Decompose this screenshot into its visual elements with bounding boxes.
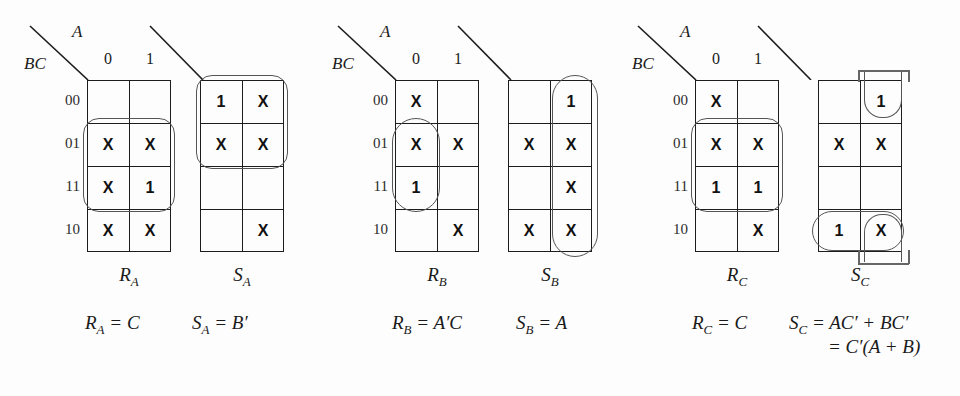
kmap-cell: [395, 209, 437, 252]
kmap-group-wrap-bottom: [864, 214, 902, 262]
equation-lhs: R: [392, 312, 404, 333]
equation-rhs: = A: [538, 312, 567, 333]
kmap-caption-sub: B: [439, 274, 447, 289]
axis-diagonal-icon: [148, 24, 226, 80]
kmap-grid-rb: X X X 1 X: [395, 80, 479, 252]
kmap-cell: X: [242, 123, 284, 166]
kmap-cell: X: [550, 209, 592, 252]
kmap-cell: X: [437, 123, 479, 166]
col-header-0: 0: [395, 50, 437, 68]
kmap-cell: X: [550, 166, 592, 209]
axis-label-a: A: [380, 22, 390, 42]
row-header-11: 11: [46, 178, 80, 195]
col-header-0: 0: [695, 50, 737, 68]
col-header-0: 0: [87, 50, 129, 68]
kmap-cell: X: [508, 123, 550, 166]
axis-diagonal-icon: [756, 24, 834, 80]
kmap-cell: [437, 80, 479, 123]
kmap-caption-sc: SC: [818, 264, 902, 290]
row-header-01: 01: [46, 135, 80, 152]
kmap-cell: X: [87, 123, 129, 166]
kmap-caption-text: S: [851, 264, 861, 285]
kmap-cell: X: [242, 80, 284, 123]
kmap-caption-sub: C: [738, 274, 747, 289]
kmap-cell: X: [550, 123, 592, 166]
kmap-cell: X: [818, 123, 860, 166]
kmap-cell: 1: [737, 166, 779, 209]
kmap-cell: [818, 166, 860, 209]
row-header-10: 10: [354, 221, 388, 238]
kmap-cell: X: [737, 123, 779, 166]
equation-sub: C: [799, 322, 808, 337]
equation-ra: RA = C: [85, 312, 140, 338]
row-header-01: 01: [354, 135, 388, 152]
equation-lhs: S: [192, 312, 202, 333]
kmap-caption-rc: RC: [695, 264, 779, 290]
row-header-10: 10: [654, 221, 688, 238]
kmap-cell: X: [242, 209, 284, 252]
kmap-cell: [508, 80, 550, 123]
equation-rc: RC = C: [692, 312, 747, 338]
equation-sc-continuation: = C′(A + B): [828, 336, 920, 358]
axis-corner-sb: [456, 24, 534, 80]
axis-label-bc: BC: [332, 54, 354, 74]
kmap-cell: [695, 209, 737, 252]
equation-sub: A: [97, 322, 105, 337]
equation-rhs: = C: [109, 312, 139, 333]
kmap-cell: X: [87, 209, 129, 252]
equation-sc: SC = AC′ + BC′: [789, 312, 908, 338]
axis-corner-sa: [148, 24, 226, 80]
equation-rhs: = C: [717, 312, 747, 333]
kmap-caption-sub: C: [860, 274, 869, 289]
equation-rhs: = AC′ + BC′: [812, 312, 908, 333]
equation-sub: A: [202, 322, 210, 337]
equation-lhs: R: [85, 312, 97, 333]
equation-sub: B: [526, 322, 534, 337]
row-header-11: 11: [654, 178, 688, 195]
kmap-cell: 1: [818, 209, 860, 252]
kmap-grid-rc: X X X 1 1 X: [695, 80, 779, 252]
kmap-wrap-bracket-top: [858, 70, 909, 72]
kmap-grid-ra: X X X 1 X X: [87, 80, 171, 252]
equation-rhs: = B′: [214, 312, 247, 333]
kmap-cell: [200, 209, 242, 252]
axis-label-a: A: [72, 22, 82, 42]
kmap-caption-text: R: [427, 264, 439, 285]
kmap-cell: X: [200, 123, 242, 166]
axis-label-bc: BC: [632, 54, 654, 74]
kmap-grid-sa: 1 X X X X: [200, 80, 284, 252]
kmap-cell: X: [437, 209, 479, 252]
kmap-grid-sb: 1 X X X X X: [508, 80, 592, 252]
kmap-cell: [437, 166, 479, 209]
kmap-cell: [200, 166, 242, 209]
kmap-cell: 1: [695, 166, 737, 209]
axis-diagonal-icon: [456, 24, 534, 80]
row-header-11: 11: [354, 178, 388, 195]
kmap-caption-text: R: [727, 264, 739, 285]
kmap-wrap-bracket-right-b: [908, 250, 910, 264]
kmap-caption-text: S: [541, 264, 551, 285]
kmap-grid-sc: 1 X X 1 X: [818, 80, 902, 252]
row-header-00: 00: [354, 92, 388, 109]
kmap-cell: X: [129, 123, 171, 166]
equation-sb: SB = A: [516, 312, 567, 338]
kmap-caption-text: R: [119, 264, 131, 285]
row-header-00: 00: [46, 92, 80, 109]
kmap-cell: [818, 80, 860, 123]
kmap-cell: 1: [200, 80, 242, 123]
equation-rhs: = A′C: [416, 312, 462, 333]
equation-lhs: S: [516, 312, 526, 333]
kmap-figure: A BC 0 1 00 01 11 10 X X X 1 X X RA: [0, 0, 960, 396]
kmap-cell: X: [695, 80, 737, 123]
kmap-cell: 1: [395, 166, 437, 209]
kmap-cell: 1: [129, 166, 171, 209]
row-header-10: 10: [46, 221, 80, 238]
kmap-cell: X: [395, 123, 437, 166]
row-header-01: 01: [654, 135, 688, 152]
kmap-cell: [129, 80, 171, 123]
kmap-group-wrap-top: [864, 70, 902, 118]
kmap-caption-text: S: [233, 264, 243, 285]
axis-corner-sc: [756, 24, 834, 80]
kmap-wrap-bracket-left-b: [858, 250, 860, 264]
kmap-caption-ra: RA: [87, 264, 171, 290]
